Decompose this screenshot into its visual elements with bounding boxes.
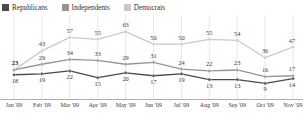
x-axis-tick-label: Sep '09 (228, 102, 246, 109)
data-point-label: 9 (263, 85, 266, 92)
legend-item-democrats[interactable]: Democrats (124, 4, 165, 12)
data-point-label: 18 (12, 77, 18, 84)
data-point-label: 57 (67, 27, 74, 34)
x-axis-tick-label: Aug '09 (200, 102, 219, 109)
legend-swatch-icon (62, 4, 69, 11)
x-axis-tick-label: Apr '09 (89, 102, 107, 109)
data-point-marker[interactable] (236, 68, 239, 71)
data-point-marker[interactable] (236, 39, 239, 42)
data-point-marker[interactable] (208, 38, 211, 41)
x-axis-tick-label: May '09 (116, 102, 136, 109)
chart-container: RepublicansIndependentsDemocrats 2343575… (0, 0, 303, 114)
data-point-label: 34 (67, 49, 74, 56)
legend-swatch-icon (124, 4, 131, 11)
data-point-label: 24 (178, 59, 185, 66)
data-point-label: 17 (150, 78, 157, 85)
chart-legend: RepublicansIndependentsDemocrats (0, 0, 303, 15)
data-point-label: 55 (95, 29, 101, 36)
data-point-label: 31 (150, 52, 156, 59)
data-point-marker[interactable] (124, 63, 127, 66)
data-point-label: 23 (12, 59, 18, 66)
data-point-marker[interactable] (180, 43, 183, 46)
data-point-label: 23 (234, 59, 240, 66)
data-point-label: 55 (206, 29, 212, 36)
legend-item-republicans[interactable]: Republicans (2, 4, 48, 12)
data-point-label: 13 (206, 82, 212, 89)
chart-plot-area: 2343575563505055543647232934332931242223… (0, 15, 303, 100)
x-axis-tick-labels: Jan '09Feb '09Mar '09Apr '09May '09Jun '… (0, 100, 303, 114)
data-point-label: 29 (39, 54, 45, 61)
line-chart-svg: 2343575563505055543647232934332931242223… (0, 15, 303, 100)
data-point-label: 29 (122, 54, 128, 61)
data-point-label: 14 (289, 81, 296, 88)
legend-item-independents[interactable]: Independents (62, 4, 110, 12)
data-point-label: 17 (289, 65, 296, 72)
data-point-label: 50 (150, 34, 156, 41)
data-point-marker[interactable] (124, 30, 127, 33)
data-point-marker[interactable] (96, 38, 99, 41)
legend-swatch-icon (2, 4, 9, 11)
data-point-label: 20 (122, 75, 128, 82)
x-axis-tick-label: Mar '09 (61, 102, 80, 109)
data-point-label: 47 (289, 37, 296, 44)
data-point-label: 22 (206, 60, 212, 67)
legend-item-label: Independents (72, 4, 110, 12)
data-point-label: 19 (178, 76, 184, 83)
data-point-marker[interactable] (264, 56, 267, 59)
data-point-marker[interactable] (264, 75, 267, 78)
data-point-label: 33 (95, 50, 101, 57)
x-axis-tick-label: Feb '09 (33, 102, 51, 109)
x-axis-tick-label: Jan '09 (6, 102, 23, 109)
data-point-marker[interactable] (68, 36, 71, 39)
data-point-label: 43 (39, 40, 45, 47)
data-point-marker[interactable] (292, 74, 295, 77)
legend-item-label: Republicans (12, 4, 48, 12)
data-point-label: 22 (67, 73, 73, 80)
data-point-label: 54 (234, 30, 241, 37)
data-point-marker[interactable] (292, 46, 295, 49)
data-point-label: 36 (262, 47, 268, 54)
data-point-marker[interactable] (68, 58, 71, 61)
data-point-marker[interactable] (208, 69, 211, 72)
data-point-label: 19 (39, 76, 45, 83)
data-point-marker[interactable] (40, 63, 43, 66)
x-axis-tick-label: Oct '09 (256, 102, 273, 109)
data-point-label: 13 (234, 82, 240, 89)
legend-item-label: Democrats (134, 4, 165, 12)
x-axis-tick-label: Jul '09 (174, 102, 190, 109)
data-point-marker[interactable] (152, 61, 155, 64)
data-point-marker[interactable] (180, 68, 183, 71)
data-point-marker[interactable] (40, 49, 43, 52)
data-point-marker[interactable] (152, 43, 155, 46)
data-point-marker[interactable] (13, 68, 16, 71)
data-point-label: 50 (178, 34, 184, 41)
data-point-label: 63 (122, 21, 128, 28)
x-axis-tick-label: Jun '09 (145, 102, 162, 109)
data-point-marker[interactable] (96, 59, 99, 62)
data-point-label: 16 (262, 66, 268, 73)
data-point-label: 15 (95, 80, 101, 87)
x-axis-tick-label: Nov '09 (284, 102, 303, 109)
